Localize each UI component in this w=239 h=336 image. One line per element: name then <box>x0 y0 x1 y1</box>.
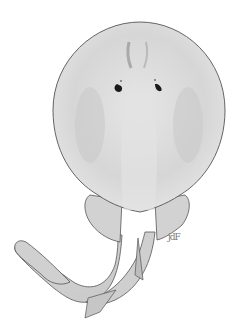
tail <box>15 232 155 318</box>
ray-illustration <box>0 0 239 336</box>
disc <box>53 22 225 212</box>
artist-signature: jdF <box>168 232 180 242</box>
